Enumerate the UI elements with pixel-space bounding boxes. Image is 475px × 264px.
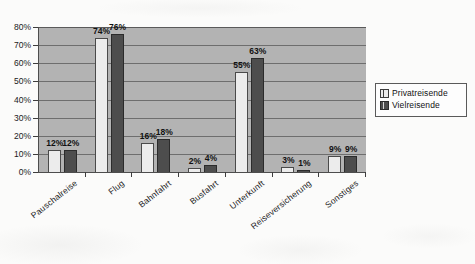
bar-privatreisende xyxy=(328,156,341,172)
x-axis-tick-mark xyxy=(85,172,86,177)
bar-privatreisende xyxy=(188,168,201,172)
legend-swatch-icon xyxy=(380,101,389,110)
bar-group: 2%4% xyxy=(188,27,217,172)
bar-value-label: 55% xyxy=(229,60,255,70)
bar-value-label: 63% xyxy=(245,46,271,56)
bar-vielreisende xyxy=(111,34,124,172)
bar-value-label: 12% xyxy=(58,138,84,148)
bar-value-label: 9% xyxy=(338,144,364,154)
x-axis-category-label: Bahnfahrt xyxy=(136,178,173,210)
bar-value-label: 4% xyxy=(198,153,224,163)
x-axis-tick-mark xyxy=(225,172,226,177)
legend-label: Privatreisende xyxy=(392,88,448,98)
bar-privatreisende xyxy=(95,38,108,172)
bar-group: 74%76% xyxy=(95,27,124,172)
y-axis-tick-label: 60% xyxy=(0,58,31,68)
bar-value-label: 76% xyxy=(105,22,131,32)
x-axis-tick-mark xyxy=(318,172,319,177)
bar-vielreisende xyxy=(344,156,357,172)
x-axis-category-label: Unterkunft xyxy=(228,178,267,211)
x-axis-category-label: Busfahrt xyxy=(187,178,219,206)
legend-item: Privatreisende xyxy=(380,88,462,98)
bar-group: 12%12% xyxy=(48,27,77,172)
x-axis-tick-mark xyxy=(178,172,179,177)
bar-group: 16%18% xyxy=(141,27,170,172)
x-axis-category-label: Flug xyxy=(106,178,126,197)
x-axis-tick-mark xyxy=(365,172,366,177)
y-axis-tick-label: 10% xyxy=(0,149,31,159)
bar-vielreisende xyxy=(297,170,310,172)
bar-chart: 0%10%20%30%40%50%60%70%80% 12%12%74%76%1… xyxy=(0,0,475,264)
x-axis-category-label: Pauschalreise xyxy=(29,178,79,220)
y-axis-tick-label: 40% xyxy=(0,95,31,105)
legend-label: Vielreisende xyxy=(392,100,440,110)
bar-value-label: 18% xyxy=(151,127,177,137)
y-axis-tick-label: 70% xyxy=(0,40,31,50)
bar-group: 9%9% xyxy=(328,27,357,172)
bar-vielreisende xyxy=(64,150,77,172)
bar-privatreisende xyxy=(141,143,154,172)
chart-legend: PrivatreisendeVielreisende xyxy=(375,83,467,117)
plot-area: 12%12%74%76%16%18%2%4%55%63%3%1%9%9% xyxy=(38,27,366,173)
legend-swatch-icon xyxy=(380,89,389,98)
y-axis-tick-label: 20% xyxy=(0,131,31,141)
bar-group: 3%1% xyxy=(281,27,310,172)
y-axis-tick-label: 30% xyxy=(0,113,31,123)
x-axis-tick-mark xyxy=(272,172,273,177)
bar-group: 55%63% xyxy=(235,27,264,172)
y-axis-tick-label: 80% xyxy=(0,22,31,32)
bar-privatreisende xyxy=(48,150,61,172)
x-axis-tick-mark xyxy=(131,172,132,177)
y-axis-tick-label: 50% xyxy=(0,76,31,86)
x-axis-category-label: Sonstiges xyxy=(323,178,360,210)
bar-vielreisende xyxy=(251,58,264,172)
bar-privatreisende xyxy=(235,72,248,172)
legend-item: Vielreisende xyxy=(380,100,462,110)
bar-value-label: 1% xyxy=(291,158,317,168)
bar-vielreisende xyxy=(157,139,170,172)
y-axis-tick-label: 0% xyxy=(0,167,31,177)
